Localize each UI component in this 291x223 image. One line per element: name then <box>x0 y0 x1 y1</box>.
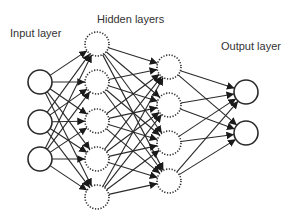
hidden-layers-label: Hidden layers <box>97 13 165 25</box>
hidden-2-node <box>157 55 181 79</box>
connection-edge <box>107 150 160 190</box>
connection-edge <box>107 74 160 114</box>
input-layer-label: Input layer <box>10 27 62 39</box>
hidden-2-node <box>157 131 181 155</box>
connection-edge <box>180 109 234 129</box>
connection-edge <box>180 71 234 89</box>
neural-network-diagram: Input layer Hidden layers Output layer <box>0 0 291 223</box>
output-layer-label: Output layer <box>221 40 281 52</box>
connections <box>45 48 238 195</box>
hidden-2-node <box>157 93 181 117</box>
connection-edge <box>50 166 87 191</box>
hidden-1-node <box>85 147 109 171</box>
input-node <box>28 110 52 134</box>
input-node <box>28 70 52 94</box>
connection-edge <box>181 135 234 142</box>
hidden-2-node <box>157 169 181 193</box>
connection-edge <box>109 184 158 195</box>
hidden-1-node <box>85 109 109 133</box>
hidden-1-node <box>85 185 109 209</box>
connection-edge <box>179 139 236 174</box>
connection-edge <box>50 51 87 76</box>
network-graphic: Input layer Hidden layers Output layer <box>0 0 291 223</box>
output-node <box>234 121 258 145</box>
connection-edge <box>181 94 234 103</box>
connection-edge <box>45 55 91 148</box>
input-node <box>28 147 52 171</box>
hidden-1-node <box>85 70 109 94</box>
hidden-1-node <box>85 32 109 56</box>
output-node <box>234 80 258 104</box>
connection-edge <box>108 48 157 64</box>
